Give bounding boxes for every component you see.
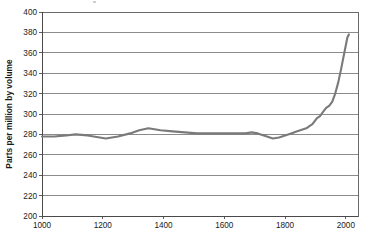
y-tick-label: 360: [23, 49, 37, 58]
y-axis-title: Parts per million by volume: [4, 59, 14, 169]
chart-page: 200220240260280300320340360380400 100012…: [0, 0, 370, 236]
y-tick-label: 320: [23, 90, 37, 99]
x-tick-labels: 100012001400160018002000: [33, 221, 356, 230]
x-tick-label: 2000: [337, 221, 356, 230]
y-tick-label: 340: [23, 69, 37, 78]
y-tick-labels: 200220240260280300320340360380400: [23, 8, 37, 221]
y-tick-label: 200: [23, 212, 37, 221]
y-tick-label: 380: [23, 28, 37, 37]
top-speck-artifact: [93, 1, 96, 3]
x-tick-label: 1400: [154, 221, 173, 230]
y-tick-label: 280: [23, 130, 37, 139]
y-tick-label: 400: [23, 8, 37, 17]
x-tick-label: 1600: [215, 221, 234, 230]
y-tick-label: 260: [23, 151, 37, 160]
x-tick-label: 1200: [94, 221, 113, 230]
y-tick-label: 240: [23, 171, 37, 180]
line-chart: 200220240260280300320340360380400 100012…: [0, 0, 370, 236]
x-tick-label: 1800: [276, 221, 295, 230]
y-tick-label: 220: [23, 192, 37, 201]
y-axis-title-label: Parts per million by volume: [4, 59, 14, 169]
y-tick-label: 300: [23, 110, 37, 119]
x-tick-label: 1000: [33, 221, 52, 230]
